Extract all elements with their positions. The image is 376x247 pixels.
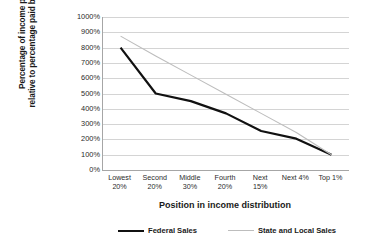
chart-legend: Federal Sales State and Local Sales — [102, 226, 352, 242]
legend-label-federal-sales: Federal Sales — [148, 226, 197, 235]
x-axis-tick-6-line-1: Top 1% — [307, 173, 353, 182]
y-axis-tick-1000: 1000% — [60, 13, 100, 21]
legend-label-state-and-local-sales: State and Local Sales — [258, 226, 336, 235]
x-axis-tick-4-line-2: 15% — [237, 182, 283, 191]
y-axis-title-line-1: Percentage of income paid, — [18, 0, 29, 108]
y-axis-tick-400: 400% — [60, 105, 100, 113]
series-line-federal-sales — [121, 48, 332, 155]
y-axis-tick-600: 600% — [60, 74, 100, 82]
chart-container: Percentage of income paid, relative to p… — [0, 0, 376, 247]
y-axis-tick-0: 0% — [60, 166, 100, 174]
plot-area — [102, 17, 349, 171]
x-axis-tick-labels: Lowest20%Second20%Middle30%Fourth20%Next… — [102, 173, 348, 197]
legend-item-federal-sales: Federal Sales — [118, 226, 197, 235]
x-axis-title: Position in income distribution — [102, 200, 348, 210]
legend-item-state-and-local-sales: State and Local Sales — [228, 226, 336, 235]
series-line-state-and-local-sales — [121, 36, 332, 155]
y-axis-title: Percentage of income paid, relative to p… — [8, 0, 48, 117]
x-axis-tick-6: Top 1% — [307, 173, 353, 182]
y-axis-tick-labels: 0%100%200%300%400%500%600%700%800%900%10… — [58, 17, 100, 170]
y-axis-tick-200: 200% — [60, 135, 100, 143]
y-axis-tick-300: 300% — [60, 120, 100, 128]
y-axis-tick-800: 800% — [60, 44, 100, 52]
legend-swatch-state-and-local-sales — [228, 230, 254, 231]
y-axis-tick-700: 700% — [60, 59, 100, 67]
legend-swatch-federal-sales — [118, 230, 144, 232]
y-axis-tick-500: 500% — [60, 90, 100, 98]
y-axis-tick-900: 900% — [60, 28, 100, 36]
y-axis-tick-100: 100% — [60, 151, 100, 159]
y-axis-title-line-2: relative to percentage paid by top 1% — [28, 0, 39, 108]
series-lines — [103, 17, 349, 170]
